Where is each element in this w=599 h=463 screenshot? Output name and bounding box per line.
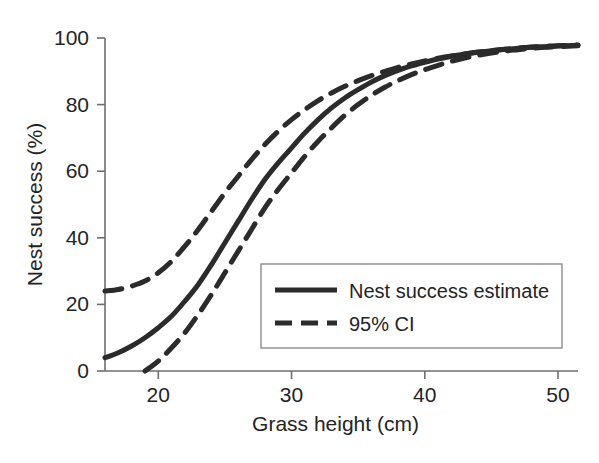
x-tick-label: 30 [280, 383, 303, 406]
y-tick-label: 100 [54, 26, 89, 49]
legend-label: Nest success estimate [349, 280, 549, 302]
y-tick-label: 40 [66, 226, 89, 249]
series-path [105, 45, 578, 291]
legend-label: 95% CI [349, 313, 415, 335]
y-tick-label: 60 [66, 159, 89, 182]
x-axis-ticks: 20304050 [147, 371, 570, 406]
chart-legend: Nest success estimate95% CI [261, 264, 562, 348]
x-axis-title: Grass height (cm) [252, 412, 419, 435]
chart-figure: 020406080100 20304050 Grass height (cm) … [0, 0, 599, 463]
y-axis-title: Nest success (%) [23, 123, 46, 286]
y-tick-label: 0 [77, 359, 89, 382]
y-tick-label: 80 [66, 93, 89, 116]
nest-success-plot: 020406080100 20304050 Grass height (cm) … [0, 0, 599, 463]
y-tick-label: 20 [66, 292, 89, 315]
legend-box [261, 264, 562, 348]
x-tick-label: 50 [546, 383, 569, 406]
x-tick-label: 40 [413, 383, 436, 406]
x-tick-label: 20 [147, 383, 170, 406]
y-axis-ticks: 020406080100 [54, 26, 105, 382]
